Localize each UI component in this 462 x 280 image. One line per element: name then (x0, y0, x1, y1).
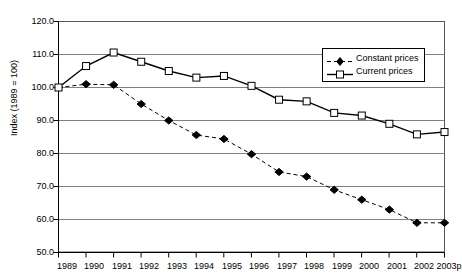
x-tick-label: 1989 (57, 262, 77, 271)
x-tick-label: 1997 (277, 262, 297, 271)
legend-item-constant-prices: Constant prices (327, 52, 419, 65)
x-tick-label: 1994 (194, 262, 214, 271)
legend-label: Constant prices (356, 53, 419, 64)
x-tick-label: 1998 (304, 262, 324, 271)
x-tick-label: 1996 (249, 262, 269, 271)
x-tick-label: 1991 (112, 262, 132, 271)
x-tick-label: 2000 (359, 262, 379, 271)
x-tick-label: 1992 (139, 262, 159, 271)
x-tick-label: 2002 (414, 262, 434, 271)
legend-item-current-prices: Current prices (327, 65, 419, 78)
x-tick-label: 2001 (387, 262, 407, 271)
x-tick-label: 1999 (332, 262, 352, 271)
chart-legend: Constant prices Current prices (322, 48, 425, 82)
x-tick-label: 1995 (222, 262, 242, 271)
legend-marker-filled-diamond-icon (327, 53, 353, 64)
legend-marker-open-square-icon (327, 66, 353, 77)
x-tick-label: 2003p (436, 262, 461, 271)
x-tick-label: 1990 (84, 262, 104, 271)
x-tick-label: 1993 (167, 262, 187, 271)
legend-label: Current prices (356, 66, 413, 77)
